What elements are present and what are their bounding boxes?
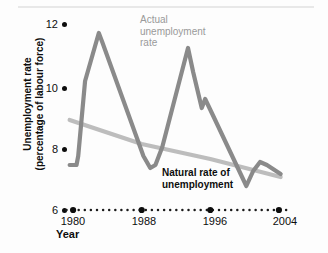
chart-page: Unemployment rate (percentage of labour … bbox=[0, 0, 328, 253]
natural-rate-line bbox=[70, 120, 281, 177]
actual-unemployment-line bbox=[70, 33, 281, 186]
plot-area bbox=[0, 0, 328, 253]
x-axis-dotted-line bbox=[65, 209, 287, 212]
